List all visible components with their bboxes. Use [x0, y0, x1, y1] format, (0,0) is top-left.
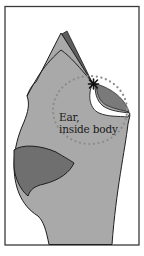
- diagram-canvas: Ear, inside body: [0, 0, 144, 256]
- ear-label-line1: Ear,: [59, 111, 79, 123]
- ear-label-line2: inside body: [59, 123, 118, 135]
- ear-opening-marker-icon: [89, 79, 99, 89]
